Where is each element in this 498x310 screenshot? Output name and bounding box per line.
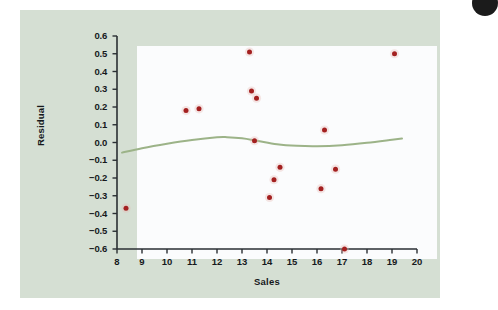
data-point <box>278 165 283 170</box>
data-point <box>254 96 259 101</box>
x-axis-label: Sales <box>117 276 417 287</box>
x-tick-label: 20 <box>405 257 429 267</box>
x-tick-label: 15 <box>280 257 304 267</box>
y-tick-label: 0.2 <box>73 102 107 112</box>
y-tick-label: 0.4 <box>73 67 107 77</box>
data-point <box>249 89 254 94</box>
y-tick-label: −0.3 <box>73 191 107 201</box>
data-point <box>252 138 257 143</box>
y-tick-label: 0.1 <box>73 120 107 130</box>
x-tick-label: 19 <box>380 257 404 267</box>
data-point <box>124 206 129 211</box>
data-point <box>322 128 327 133</box>
data-point <box>247 49 252 54</box>
x-tick-label: 11 <box>180 257 204 267</box>
data-point <box>267 195 272 200</box>
y-axis-label: Residual <box>35 81 46 171</box>
y-tick-label: 0.3 <box>73 84 107 94</box>
y-tick-label: −0.5 <box>73 226 107 236</box>
x-tick-label: 10 <box>155 257 179 267</box>
x-tick-label: 9 <box>130 257 154 267</box>
y-tick-label: 0.6 <box>73 31 107 41</box>
x-tick-label: 16 <box>305 257 329 267</box>
data-point <box>319 186 324 191</box>
y-tick-label: 0.5 <box>73 49 107 59</box>
data-point <box>333 167 338 172</box>
smoother-line <box>122 137 402 153</box>
data-points-group <box>121 47 399 253</box>
data-point <box>272 177 277 182</box>
data-point <box>184 108 189 113</box>
data-point <box>342 247 347 252</box>
y-tick-label: −0.2 <box>73 173 107 183</box>
y-tick-label: −0.1 <box>73 155 107 165</box>
x-tick-label: 18 <box>355 257 379 267</box>
y-tick-label: −0.4 <box>73 209 107 219</box>
x-tick-label: 14 <box>255 257 279 267</box>
data-point <box>392 51 397 56</box>
data-point <box>197 106 202 111</box>
x-tick-label: 12 <box>205 257 229 267</box>
y-tick-label: 0.0 <box>73 138 107 148</box>
x-tick-label: 17 <box>330 257 354 267</box>
x-tick-label: 13 <box>230 257 254 267</box>
y-tick-label: −0.6 <box>73 244 107 254</box>
x-tick-label: 8 <box>105 257 129 267</box>
residual-plot-figure: 0.60.50.40.30.20.10.0−0.1−0.2−0.3−0.4−0.… <box>0 0 498 310</box>
